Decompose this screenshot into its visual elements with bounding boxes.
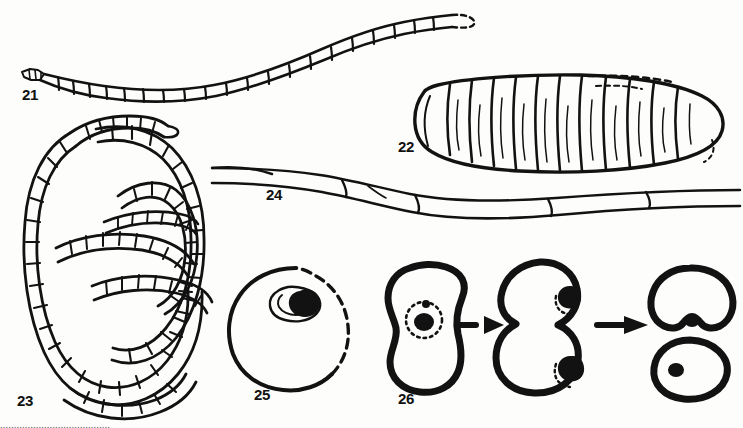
fig-23-label: 23: [17, 392, 33, 409]
fig-26-stage-2-nucleus-upper: [558, 286, 581, 309]
fig-21-label: 21: [22, 86, 38, 103]
fig-22-label: 22: [398, 138, 414, 155]
plate-background: [0, 0, 743, 428]
fig-26-stage-1-nucleus: [414, 313, 434, 331]
fig-26-stage-2-nucleus-lower: [558, 356, 584, 382]
plate-drawing: 21: [0, 0, 743, 428]
figure-plate: 21: [0, 0, 743, 428]
fig-25-label: 25: [254, 386, 270, 403]
fig-24-label: 24: [266, 186, 283, 203]
fig-26-stage-3-nucleus-lower: [668, 363, 684, 377]
plate-caption-cutoff: ........................................: [0, 419, 743, 428]
fig-26-stage-3-nucleus-upper: [684, 313, 700, 327]
fig-26-label: 26: [398, 390, 414, 407]
